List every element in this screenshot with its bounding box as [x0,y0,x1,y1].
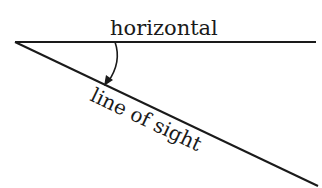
angle-of-depression-diagram: horizontal line of sight [0,0,322,188]
diagram-svg: horizontal line of sight [0,0,322,188]
angle-arc-arrow [108,42,117,82]
line-of-sight-label: line of sight [87,83,206,156]
line-of-sight-line [15,42,318,186]
horizontal-label: horizontal [110,16,218,40]
